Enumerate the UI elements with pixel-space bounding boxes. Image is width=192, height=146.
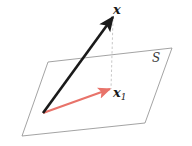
vector-x-arrow <box>43 17 113 113</box>
subspace-S-label: S <box>152 52 160 64</box>
vector-projection-figure: x x1 S <box>0 0 192 146</box>
vector-x-label: x <box>113 3 121 16</box>
vector-x1-label-subscript: 1 <box>121 92 127 102</box>
vector-x1-label: x1 <box>113 86 127 99</box>
subspace-plane-S <box>22 48 172 136</box>
vector-x1-label-base: x <box>113 85 121 100</box>
projection-dashed-line <box>111 19 113 89</box>
figure-canvas <box>0 0 192 146</box>
